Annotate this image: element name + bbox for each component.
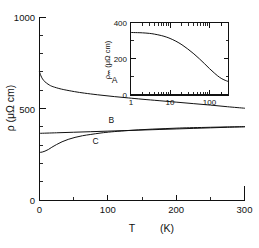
main-x-axis-title: T [129, 222, 136, 234]
inset-xtick-label-1: 1 [129, 98, 134, 107]
figure-container: 1000 500 0 0 100 200 300 ρ (μΩ cm) T (K)… [0, 0, 259, 248]
resistivity-vs-temperature-chart: 1000 500 0 0 100 200 300 ρ (μΩ cm) T (K)… [0, 0, 259, 248]
main-xtick-label-300: 300 [237, 204, 253, 215]
inset-y-axis-title: ρₘ (μΩ cm) [103, 40, 112, 79]
inset-ytick-label-0: 0 [123, 91, 128, 100]
main-ytick-label-500: 500 [19, 104, 35, 115]
curve-b-label: B [108, 115, 114, 125]
main-xtick-label-200: 200 [168, 204, 184, 215]
main-xtick-label-100: 100 [100, 204, 116, 215]
curve-a-label: A [112, 75, 118, 85]
main-ytick-label-1000: 1000 [14, 12, 35, 23]
main-y-axis-title: ρ (μΩ cm) [4, 85, 16, 132]
inset-xtick-label-100: 100 [203, 98, 217, 107]
inset-plot: 400 200 0 1 10 100 ρₘ (μΩ cm) [103, 19, 229, 107]
curve-c-label: C [92, 136, 98, 146]
main-xtick-label-0: 0 [37, 204, 42, 215]
curve-c-path [40, 127, 245, 153]
main-x-minor-ticks [74, 197, 211, 201]
inset-ytick-label-400: 400 [114, 19, 128, 28]
main-x-axis-unit: (K) [160, 222, 174, 234]
main-y-major-ticks [40, 17, 46, 201]
inset-ytick-label-200: 200 [114, 55, 128, 64]
main-ytick-label-0: 0 [30, 195, 35, 206]
inset-xtick-label-10: 10 [166, 98, 175, 107]
